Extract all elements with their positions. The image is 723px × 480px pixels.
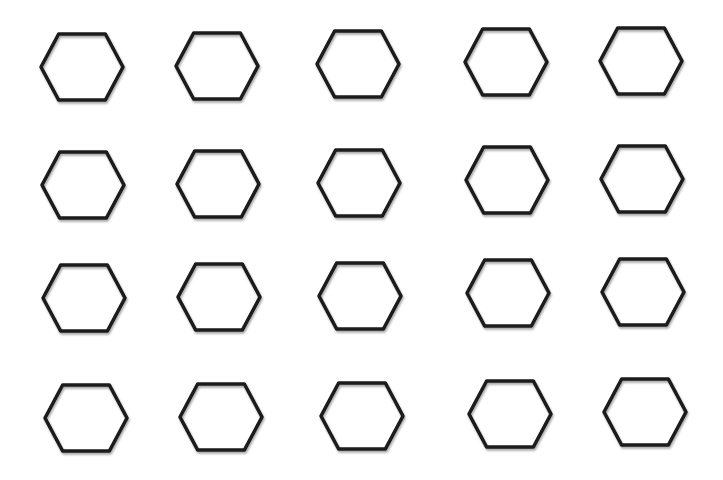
hexagon-r4-c5 (604, 379, 686, 445)
hexagon-r3-c3 (319, 263, 401, 329)
hexagon-r4-c2 (180, 384, 262, 450)
hexagon-r3-c4 (467, 260, 549, 326)
hexagon-r1-c4 (465, 29, 547, 95)
hexagon-r1-c5 (600, 28, 682, 94)
hexagon-r2-c1 (42, 152, 124, 218)
hexagon-r4-c3 (321, 383, 403, 449)
hexagon-r3-c1 (43, 265, 125, 331)
hexagon-grid-diagram (0, 0, 723, 480)
hexagon-r1-c1 (41, 34, 123, 100)
hexagon-r2-c2 (177, 151, 259, 217)
hexagon-r1-c2 (176, 33, 258, 99)
hexagon-r3-c2 (178, 264, 260, 330)
hexagon-r3-c5 (602, 259, 684, 325)
hexagon-r2-c3 (318, 150, 400, 216)
hexagon-r2-c5 (601, 146, 683, 212)
hexagon-r1-c3 (317, 31, 399, 97)
hexagon-r2-c4 (466, 147, 548, 213)
hexagon-layer (41, 28, 686, 451)
hexagon-r4-c4 (469, 381, 551, 447)
hexagon-r4-c1 (45, 385, 127, 451)
